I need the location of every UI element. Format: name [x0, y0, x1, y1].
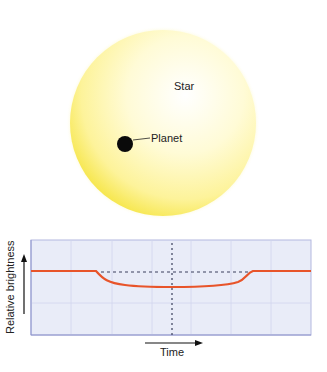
planet-label: Planet [151, 132, 182, 144]
light-curve-chart: Relative brightness Time [4, 240, 311, 358]
star: Star [66, 26, 260, 220]
star-disk [70, 30, 256, 216]
y-axis-label: Relative brightness [4, 240, 16, 334]
planet-disk [117, 136, 133, 152]
y-axis-arrow-icon [21, 254, 27, 314]
star-label: Star [174, 80, 195, 92]
transit-diagram: Star Planet Relative brightness [0, 0, 327, 372]
x-axis-label: Time [160, 346, 184, 358]
